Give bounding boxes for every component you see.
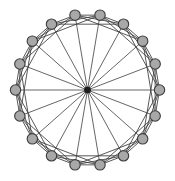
graph-node — [95, 160, 105, 170]
graph-spoke — [88, 90, 156, 116]
graph-canvas — [0, 0, 175, 181]
graph-node — [15, 59, 25, 69]
graph-edge — [16, 24, 52, 90]
graph-node — [15, 111, 25, 121]
graph-edge — [75, 15, 143, 41]
graph-node — [70, 160, 80, 170]
graph-node — [118, 19, 128, 29]
graph-node — [46, 19, 56, 29]
graph-edge — [32, 15, 100, 41]
graph-edge — [16, 90, 52, 156]
graph-spoke — [20, 64, 88, 90]
graph-node — [154, 85, 164, 95]
graph-node — [137, 36, 147, 46]
graph-node — [10, 85, 20, 95]
graph-node — [27, 36, 37, 46]
graph-hub-node — [85, 87, 91, 93]
graph-spoke — [88, 90, 143, 139]
graph-node — [150, 111, 160, 121]
graph-spoke — [32, 90, 87, 139]
graph-node — [137, 134, 147, 144]
graph-spoke — [32, 41, 87, 90]
graph-spoke — [88, 41, 143, 90]
graph-node — [118, 151, 128, 161]
graph-node — [95, 10, 105, 20]
graph-node — [27, 134, 37, 144]
graph-node — [150, 59, 160, 69]
graph-edge — [32, 139, 100, 165]
graph-edge — [124, 90, 160, 156]
graph-edge — [75, 139, 143, 165]
graph-node — [46, 151, 56, 161]
graph-spoke — [88, 64, 156, 90]
graph-edge — [124, 24, 160, 90]
graph-figure — [0, 0, 175, 181]
graph-node — [70, 10, 80, 20]
graph-spoke — [20, 90, 88, 116]
